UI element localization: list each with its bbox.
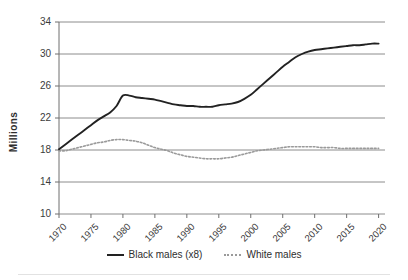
y-tick-label: 30 (25, 49, 51, 59)
y-axis-ticks (55, 22, 59, 214)
y-tick-label: 22 (25, 113, 51, 123)
y-tick-label: 10 (25, 209, 51, 219)
legend-entry: Black males (x8) (107, 249, 203, 260)
legend-label: Black males (x8) (129, 249, 203, 260)
y-axis-title: Millions (8, 92, 19, 172)
y-tick-label: 34 (25, 17, 51, 27)
line-chart-figure: Millions 10141822263034 1970197519801985… (0, 0, 408, 280)
y-tick-label: 14 (25, 177, 51, 187)
legend-swatch-solid-icon (107, 254, 124, 256)
chart-legend: Black males (x8)White males (0, 249, 408, 260)
series-line-white-males (59, 140, 379, 159)
y-tick-label: 26 (25, 81, 51, 91)
legend-swatch-dotted-icon (224, 254, 241, 256)
legend-label: White males (246, 249, 301, 260)
x-axis-ticks (59, 214, 379, 218)
series-line-black-males (59, 44, 379, 150)
bottom-divider (18, 274, 390, 275)
y-tick-label: 18 (25, 145, 51, 155)
legend-entry: White males (224, 249, 301, 260)
gridlines (59, 22, 385, 214)
